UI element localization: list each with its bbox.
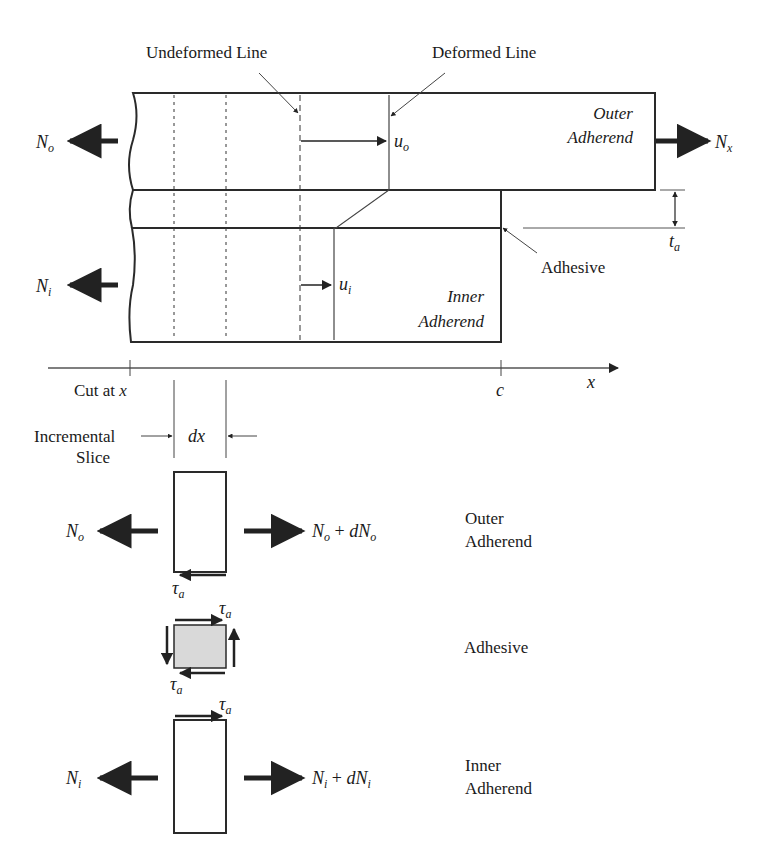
outer-adherend-label-2: Adherend [567, 128, 634, 147]
lap-joint-diagram: Undeformed Line Deformed Line Outer Adhe… [0, 0, 771, 861]
joint-section: Undeformed Line Deformed Line Outer Adhe… [35, 43, 733, 342]
adhesive-label: Adhesive [541, 258, 605, 277]
n-inner-left-label: Ni [35, 276, 51, 299]
deformed-leader-arrow [391, 73, 445, 116]
outer-adherend-label-1: Outer [593, 104, 633, 123]
inner-adherend-label-1: Inner [446, 287, 484, 306]
n-outer-left-label: No [35, 132, 54, 155]
inner-adherend-label-2: Adherend [418, 312, 485, 331]
fbd-adhesive: τa τa Adhesive [167, 598, 528, 697]
outer-right-force-label: No + dNo [311, 521, 376, 544]
wavy-cut-adhesive [130, 190, 133, 228]
c-label: c [496, 380, 504, 400]
outer-left-force-label: No [65, 521, 84, 544]
x-axis: x Cut at x c [48, 360, 618, 400]
fbd-outer-adherend: No No + dNo τa Outer Adherend [65, 472, 533, 601]
adhesive-fbd-label: Adhesive [464, 638, 528, 657]
inner-adherend-fbd-label-2: Adherend [465, 779, 533, 798]
inner-adherend-fbd-label-1: Inner [465, 756, 501, 775]
outer-adherend-fbd-label-2: Adherend [465, 532, 533, 551]
inner-slice-rect [174, 720, 226, 833]
n-x-right-label: Nx [714, 132, 733, 155]
inner-right-force-label: Ni + dNi [311, 768, 371, 791]
adhesive-leader-arrow [503, 228, 537, 253]
u-inner-label: ui [339, 274, 351, 297]
incremental-label: Incremental [34, 427, 115, 446]
slice-label: Slice [76, 448, 110, 467]
x-axis-label: x [586, 372, 595, 392]
inner-shear-label: τa [219, 694, 231, 717]
inner-left-force-label: Ni [65, 768, 81, 791]
ta-label: ta [669, 231, 680, 254]
adhesive-top-shear-label: τa [219, 598, 231, 621]
outer-shear-label: τa [172, 578, 184, 601]
outer-slice-rect [174, 472, 226, 572]
fbd-inner-adherend: τa Ni Ni + dNi Inner Adherend [65, 694, 533, 833]
slice-dimension: dx Incremental Slice [34, 380, 257, 467]
undeformed-line-label: Undeformed Line [146, 43, 267, 62]
cut-at-x-label: Cut at x [74, 381, 127, 400]
adhesive-bottom-shear-label: τa [170, 674, 182, 697]
adhesive-slice-rect [174, 625, 226, 668]
dx-label: dx [188, 426, 205, 446]
u-outer-label: uo [394, 131, 409, 154]
outer-adherend-fbd-label-1: Outer [465, 509, 504, 528]
deformed-line [334, 95, 389, 340]
deformed-line-label: Deformed Line [432, 43, 536, 62]
